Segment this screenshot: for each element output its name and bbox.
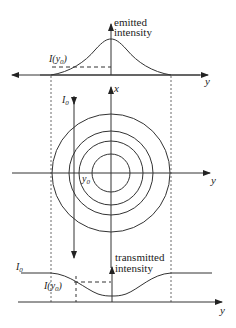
bottom-y-label: y: [219, 304, 225, 316]
emitted-intensity-panel: [12, 24, 208, 75]
shells-panel: [12, 87, 210, 268]
beam-label: I0: [61, 94, 69, 107]
baseline-I0-label: I0: [15, 261, 23, 274]
emitted-marker-label: I(y0): [48, 53, 68, 66]
middle-y-label: y: [210, 174, 216, 186]
top-y-label: y: [204, 75, 210, 87]
transmitted-marker-label: I(y0): [43, 280, 63, 293]
emitted-label-2: intensity: [114, 26, 152, 38]
abel-inversion-diagram: emitted intensity I(y0) y x I0 y0 y tran…: [0, 0, 236, 328]
transmitted-label-2: intensity: [115, 262, 153, 274]
x-axis-label: x: [113, 82, 119, 94]
y0-label: y0: [81, 173, 90, 186]
